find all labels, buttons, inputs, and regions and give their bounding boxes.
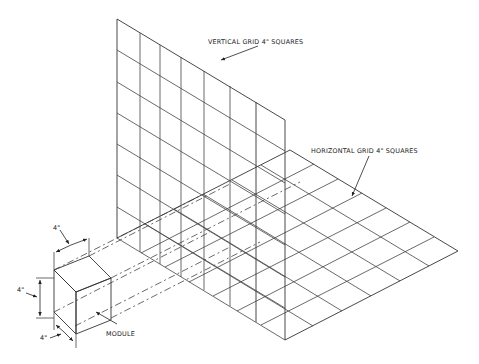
horizontal-grid-label: HORIZONTAL GRID 4" SQUARES: [311, 147, 418, 155]
module-cube: [54, 256, 111, 334]
module-label: MODULE: [106, 330, 135, 338]
projection-lines: [54, 182, 300, 326]
dim-bottom-label: 4": [40, 334, 47, 342]
horizontal-grid: [117, 150, 458, 340]
vertical-grid-label: VERTICAL GRID 4" SQUARES: [208, 38, 303, 46]
dim-left-label: 4": [17, 286, 24, 294]
modular-grid-diagram: VERTICAL GRID 4" SQUARES HORIZONTAL GRID…: [0, 0, 479, 364]
dimension-lines: [26, 230, 89, 348]
dim-top-label: 4": [53, 224, 60, 232]
label-leaders: [96, 46, 369, 324]
